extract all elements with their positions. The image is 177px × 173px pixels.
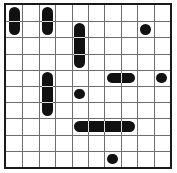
piece-segment-divider (88, 121, 89, 132)
single-dot-c4-r5[interactable] (74, 89, 85, 100)
piece-segment-divider (121, 121, 122, 132)
pieces-layer (6, 5, 170, 167)
piece-segment-divider (42, 102, 53, 103)
puzzle-board (0, 0, 177, 173)
horizontal-quad-c4-r7[interactable] (74, 121, 135, 132)
horizontal-domino-c6-r4[interactable] (107, 73, 136, 84)
single-dot-c8-r1[interactable] (140, 24, 151, 35)
piece-segment-divider (104, 121, 105, 132)
piece-segment-divider (74, 54, 85, 55)
vertical-triple-c4-r1[interactable] (74, 23, 85, 67)
piece-segment-divider (42, 21, 53, 22)
piece-segment-divider (42, 86, 53, 87)
vertical-domino-c0-r0[interactable] (9, 7, 20, 35)
piece-segment-divider (9, 21, 20, 22)
piece-segment-divider (121, 73, 122, 84)
vertical-domino-c2-r0[interactable] (42, 7, 53, 35)
vertical-triple-c2-r4[interactable] (42, 72, 53, 116)
piece-segment-divider (74, 37, 85, 38)
single-dot-c6-r9[interactable] (107, 154, 118, 165)
single-dot-c9-r4[interactable] (156, 73, 167, 84)
grid-frame (4, 3, 172, 169)
